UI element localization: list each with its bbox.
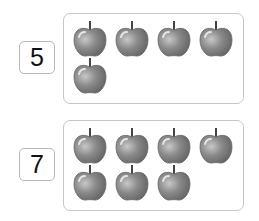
apple-icon	[114, 127, 150, 165]
apple-box	[63, 13, 244, 104]
apple-icon	[114, 164, 150, 202]
number-label: 5	[30, 43, 44, 72]
apple-icon	[72, 127, 108, 165]
number-box: 7	[19, 148, 55, 181]
apple-icon	[156, 127, 192, 165]
number-label: 7	[30, 150, 44, 179]
apple-icon	[198, 20, 234, 58]
apple-icon	[72, 57, 108, 95]
apple-icon	[114, 20, 150, 58]
apple-box	[63, 120, 244, 211]
apple-icon	[156, 20, 192, 58]
number-box: 5	[19, 41, 55, 74]
apple-icon	[72, 164, 108, 202]
apple-icon	[198, 127, 234, 165]
apple-icon	[72, 20, 108, 58]
apple-icon	[156, 164, 192, 202]
